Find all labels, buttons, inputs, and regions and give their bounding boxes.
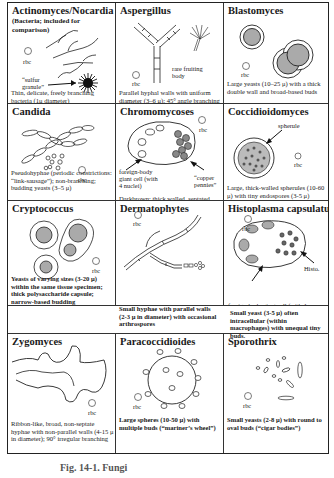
- cell-blastomyces: Blastomyces rbc Large yeasts (10–25 μ) w…: [224, 3, 328, 104]
- fruiting-body-label: rare fruiting body: [172, 65, 212, 79]
- fungi-figure-grid: Actinomyces/Nocardia (Bacteria; included…: [7, 2, 329, 454]
- cell-sporothrix: Sporothrix rbc Small yeasts (2-8 μ) with…: [224, 333, 328, 453]
- sulfur-granule-label: “sulfur granule”: [22, 76, 54, 90]
- cell-description: Large yeasts (10–25 μ) with a thick doub…: [227, 80, 325, 95]
- cell-description: Thin, delicate, freely branching bacteri…: [11, 89, 115, 104]
- rbc-icon: [135, 212, 142, 219]
- cigar-bodies-illustration: [224, 334, 328, 453]
- cell-cryptococcus: Cryptococcus rbc Yeasts of varying sizes…: [8, 201, 116, 306]
- rbc-label: rbc: [243, 402, 251, 409]
- rbc-label: rbc: [242, 225, 250, 232]
- rbc-label: rbc: [294, 161, 302, 168]
- rbc-icon: [295, 153, 301, 159]
- rbc-icon: [25, 48, 32, 55]
- copper-pennies-label: “copper pennies”: [194, 174, 222, 188]
- rbc-icon: [89, 400, 96, 407]
- cell-aspergillus: Aspergillus rbc rare fruiting body Paral…: [116, 3, 224, 104]
- cell-description: Small yeasts (2-8 μ) with round to oval …: [227, 416, 325, 431]
- rbc-icon: [133, 72, 140, 79]
- cell-description: Parallel hyphal walls with uniform diame…: [119, 89, 223, 104]
- cell-description: Large spheres (10-50 μ) with multiple bu…: [119, 416, 223, 431]
- dermatophyte-hyphae-illustration: [116, 201, 224, 306]
- cell-description: Yeasts of varying sizes (3-20 μ) within …: [11, 275, 115, 305]
- rbc-icon: [243, 63, 250, 70]
- rbc-label: rbc: [92, 267, 100, 274]
- histo-label: Histo.: [304, 265, 319, 272]
- rbc-icon: [245, 216, 252, 223]
- cell-chromomycoses: Chromomycoses rbc foreign-body giant cel…: [116, 104, 224, 201]
- cell-actinomyces: Actinomyces/Nocardia (Bacteria; included…: [8, 3, 116, 104]
- cell-coccidioidomyces: Coccidioidomyces spherule rbc Large, thi…: [224, 104, 328, 201]
- sulfur-granule-icon: [83, 78, 93, 88]
- rbc-icon: [199, 117, 206, 124]
- histoplasma-macrophage-illustration: [224, 201, 328, 306]
- rbc-icon: [135, 394, 142, 401]
- giant-cell-label: foreign-body giant cell (with 4 nuclei): [228, 302, 324, 306]
- dermatophytes-description: Small hyphae with parallel walls (2-3 μ …: [119, 305, 219, 328]
- cell-paracoccidioides: Paracoccidioides rbc Large spheres (10-5…: [116, 333, 224, 453]
- rbc-label: rbc: [241, 71, 249, 78]
- rbc-label: rbc: [133, 403, 141, 410]
- rbc-label: rbc: [23, 58, 31, 65]
- cell-dermatophytes: Dermatophytes rbc: [116, 201, 224, 306]
- giant-cell-label: foreign-body giant cell (with 4 nuclei): [119, 168, 161, 189]
- rbc-icon: [245, 393, 252, 400]
- spherule-label: spherule: [278, 122, 300, 129]
- cell-description: Ribbon-like, broad, non-septate hyphae w…: [11, 420, 115, 443]
- rbc-label: rbc: [88, 409, 96, 416]
- cell-description: Large, thick-walled spherules (10-60 μ) …: [227, 184, 325, 199]
- cell-candida: Candida rbc Pseudohyphae (periodic const…: [8, 104, 116, 201]
- cell-zygomyces: Zygomyces rbc Ribbon-like, broad, non-se…: [8, 333, 116, 453]
- rbc-label: rbc: [133, 220, 141, 227]
- rbc-icon: [93, 258, 100, 265]
- cell-histoplasma: Histoplasma capsulatum rbc Histo. foreig…: [224, 201, 328, 306]
- rbc-label: rbc: [132, 80, 140, 87]
- cell-description: Pseudohyphae (periodic constrictions: “l…: [11, 169, 115, 192]
- mariners-wheel-illustration: [116, 334, 224, 453]
- figure-caption: Fig. 14-1. Fungi: [60, 462, 127, 473]
- rbc-label: rbc: [199, 126, 207, 133]
